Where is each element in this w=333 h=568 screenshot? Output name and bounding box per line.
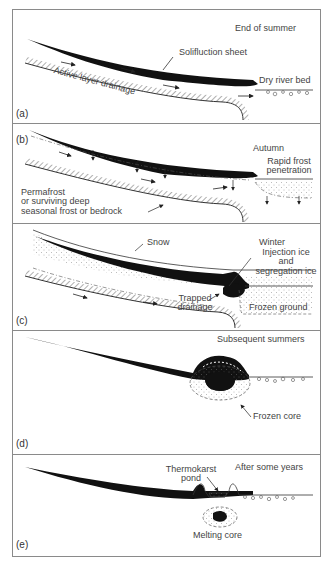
dry-river-bed-label: Dry river bed (259, 76, 311, 85)
frozen-core-label: Frozen core (253, 412, 301, 421)
panel-tag-c: (c) (16, 315, 28, 326)
rapid-frost-label: Rapid frost penetration (259, 157, 319, 176)
thermokarst-line-2: pond (161, 474, 221, 483)
season-label-b: Autumn (253, 144, 284, 153)
season-label-d: Subsequent summers (217, 335, 305, 344)
snow-label: Snow (147, 238, 170, 247)
panel-e: After some years Thermokarst pond Meltin… (13, 455, 320, 558)
panel-d-drawing (13, 331, 322, 455)
frozen-ground-label: Frozen ground (249, 303, 308, 312)
injection-ice-label: Injection ice and segregation ice (249, 248, 323, 276)
melting-core-label: Melting core (193, 531, 242, 540)
figure-frame: End of summer Solifluction sheet Active … (12, 9, 321, 557)
panel-d: Subsequent summers Frozen core (d) (13, 331, 320, 455)
solifluction-sheet-label: Solifluction sheet (179, 48, 247, 57)
permafrost-label: Permafrost or surviving deep seasonal fr… (21, 188, 122, 216)
rapid-frost-line-2: penetration (259, 166, 319, 175)
trapped-line-2: drainage (173, 303, 217, 312)
panel-tag-e: (e) (16, 539, 28, 550)
panel-a: End of summer Solifluction sheet Active … (13, 10, 320, 124)
permafrost-line-3: seasonal frost or bedrock (21, 207, 122, 216)
injection-line-3: segregation ice (249, 267, 323, 276)
panel-tag-a: (a) (16, 108, 28, 119)
panel-b: Autumn (b) Rapid frost penetration Perma… (13, 124, 320, 224)
season-label-e: After some years (235, 463, 303, 472)
thermokarst-pond-label: Thermokarst pond (161, 465, 221, 484)
season-label-a: End of summer (235, 24, 296, 33)
panel-tag-d: (d) (16, 438, 28, 449)
trapped-drainage-label: Trapped drainage (173, 294, 217, 313)
panel-c: Winter Snow Injection ice and segregatio… (13, 224, 320, 331)
panel-tag-b: (b) (16, 134, 28, 145)
